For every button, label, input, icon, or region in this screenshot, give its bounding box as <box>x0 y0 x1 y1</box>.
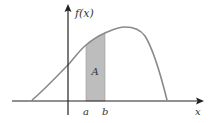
region-label-A: A <box>91 66 99 77</box>
x-axis-label: x <box>195 106 201 117</box>
function-area-diagram: f(x) A a b x <box>0 0 212 123</box>
y-axis-label: f(x) <box>74 7 94 20</box>
upper-bound-label-b: b <box>102 106 108 117</box>
lower-bound-label-a: a <box>83 106 89 117</box>
diagram-canvas: f(x) A a b x <box>0 0 212 123</box>
